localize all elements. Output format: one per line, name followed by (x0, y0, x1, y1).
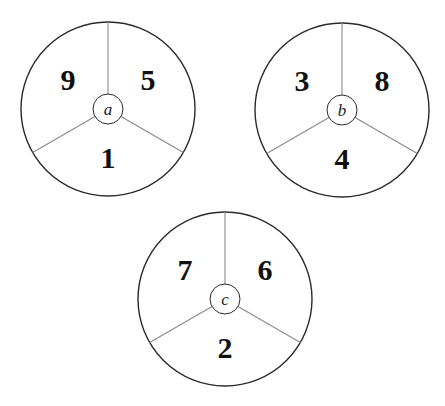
spinner-b-section-top-left: 3 (295, 64, 310, 97)
spinner-a: a 9 5 1 (21, 22, 195, 196)
spinner-b: b 3 8 4 (255, 23, 429, 197)
spinner-diagram: a 9 5 1 b 3 8 4 c 7 6 2 (0, 0, 445, 406)
spinner-b-spoke-right (355, 118, 417, 154)
spinner-b-section-top-right: 8 (375, 64, 390, 97)
spinner-a-label: a (104, 100, 113, 119)
spinner-a-spoke-right (121, 117, 183, 153)
spinner-c-spoke-left (150, 307, 212, 343)
spinner-c-section-bottom: 2 (218, 331, 233, 364)
spinner-b-label: b (338, 101, 347, 120)
spinner-a-spoke-left (33, 117, 95, 153)
spinner-c-spoke-right (238, 307, 300, 343)
spinner-a-section-top-left: 9 (61, 63, 76, 96)
spinner-c-section-top-left: 7 (178, 253, 193, 286)
spinner-a-section-top-right: 5 (141, 63, 156, 96)
spinner-b-section-bottom: 4 (335, 142, 350, 175)
spinner-c-section-top-right: 6 (258, 253, 273, 286)
spinner-b-spoke-left (267, 118, 329, 154)
spinner-a-section-bottom: 1 (101, 141, 116, 174)
spinner-c-label: c (221, 290, 229, 309)
spinner-c: c 7 6 2 (138, 212, 312, 386)
